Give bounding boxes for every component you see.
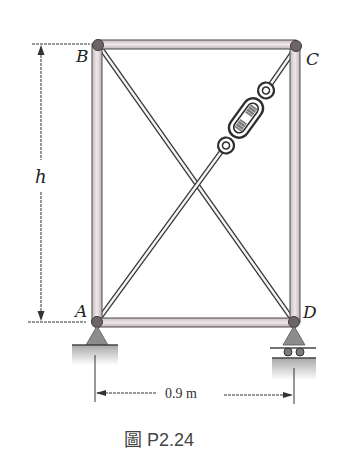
roller-support-triangle-icon (283, 326, 305, 345)
truss-frame-diagram: h (0, 0, 342, 472)
pin-support-triangle-icon (86, 326, 108, 345)
width-arrow-right-icon (283, 392, 293, 398)
joint-label-D: D (302, 302, 317, 322)
roller-wheel-right-icon (296, 348, 304, 356)
width-label: 0.9 m (165, 386, 197, 401)
joint-label-A: A (73, 301, 87, 321)
roller-support-D (270, 326, 316, 380)
joint-B (93, 40, 104, 51)
height-dimension: h (28, 44, 90, 322)
bar-BC (98, 40, 296, 49)
height-arrow-up-icon (38, 45, 45, 55)
figure-caption: 圖 P2.24 (124, 430, 194, 450)
bar-CD (290, 46, 300, 322)
turnbuckle-icon (213, 78, 279, 158)
bar-AB (92, 44, 102, 322)
height-label: h (35, 166, 47, 187)
bar-AD (97, 318, 295, 327)
joint-label-C: C (306, 49, 319, 69)
joint-C (291, 41, 302, 52)
height-arrow-down-icon (38, 311, 45, 321)
width-arrow-left-icon (96, 390, 106, 396)
width-dimension: 0.9 m (95, 355, 294, 404)
roller-wheel-left-icon (284, 348, 292, 356)
joint-label-B: B (75, 46, 89, 66)
